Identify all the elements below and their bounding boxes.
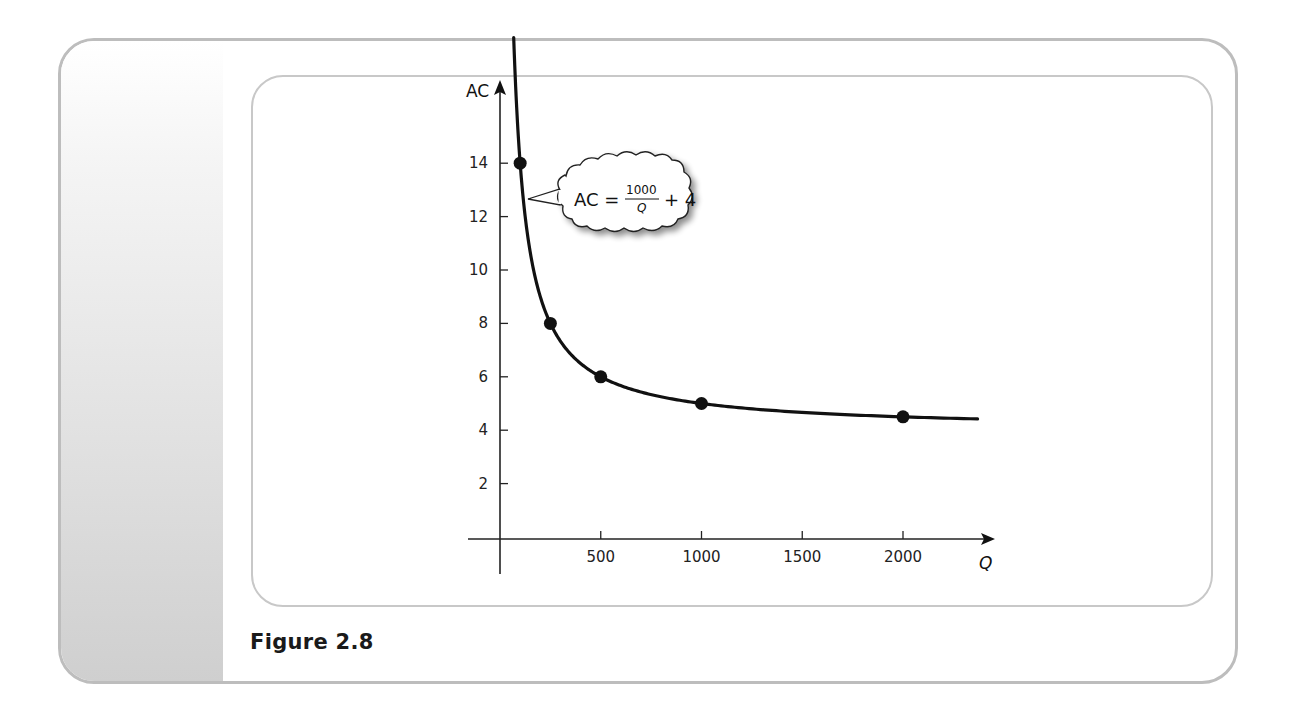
formula-numerator: 1000 [626,183,657,197]
formula-callout: AC = 1000 Q + 4 [528,152,696,232]
x-tick-label: 2000 [884,548,922,566]
average-cost-curve [514,38,978,419]
y-tick-label: 2 [478,475,488,493]
x-tick-label: 1000 [682,548,720,566]
data-point [897,410,910,423]
y-axis-title: AC [466,81,489,101]
average-cost-chart: 500100015002000 2468101214 AC Q AC = 100… [0,0,1298,724]
y-tick-label: 10 [469,261,488,279]
x-tick-label: 1500 [783,548,821,566]
y-tick-label: 4 [478,421,488,439]
formula-denominator: Q [637,201,646,215]
x-tick-label: 500 [586,548,615,566]
callout-tail [528,189,560,205]
x-axis-title: Q [979,553,992,573]
data-point [594,370,607,383]
formula-lhs: AC = [574,189,619,210]
data-point [544,317,557,330]
figure-caption: Figure 2.8 [250,630,374,654]
y-tick-label: 8 [478,314,488,332]
y-tick-label: 6 [478,368,488,386]
x-ticks: 500100015002000 [586,531,922,566]
formula-rhs: + 4 [664,189,696,210]
y-tick-label: 12 [469,208,488,226]
data-point [695,397,708,410]
y-tick-label: 14 [469,154,488,172]
data-point [514,157,527,170]
y-ticks: 2468101214 [469,154,508,492]
